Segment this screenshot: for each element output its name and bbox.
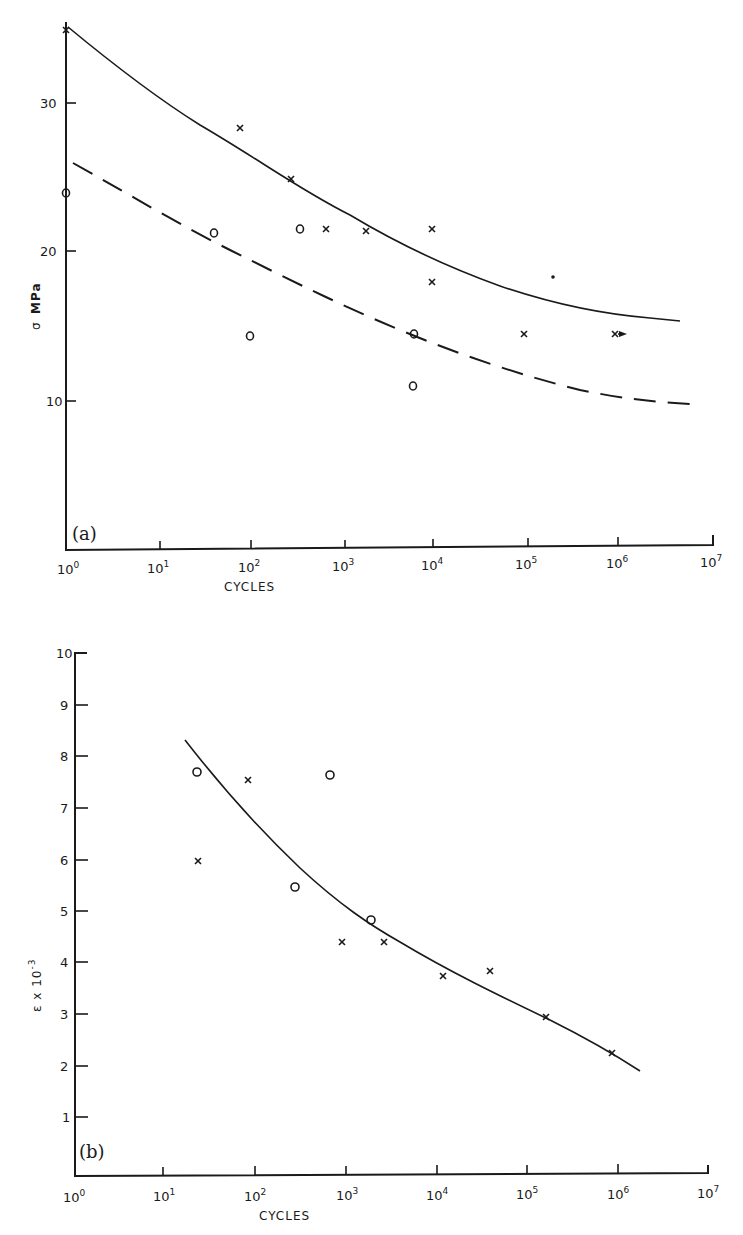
chart-b-x-markers <box>195 777 615 1056</box>
chart-a-dashed-fit-line <box>73 163 690 404</box>
chart-a-dot-marker <box>551 275 555 279</box>
svg-text:104: 104 <box>421 556 444 573</box>
svg-text:3: 3 <box>60 1007 68 1022</box>
chart-b-xtick-labels: 100 101 102 103 104 105 106 107 <box>63 1184 719 1205</box>
svg-text:9: 9 <box>60 698 68 713</box>
svg-text:10: 10 <box>56 646 73 661</box>
chart-a-ytick-label: 20 <box>40 244 57 259</box>
chart-a-ylabel-unit: MPa <box>29 282 43 314</box>
svg-text:104: 104 <box>426 1186 449 1203</box>
svg-text:100: 100 <box>63 1188 86 1205</box>
svg-text:105: 105 <box>515 555 537 572</box>
svg-text:7: 7 <box>60 801 68 816</box>
chart-a-ytick-label: 30 <box>40 96 57 111</box>
chart-b-yticks <box>75 705 88 1117</box>
chart-b-ytick-labels: 10 9 8 7 6 5 4 3 2 1 <box>56 646 73 1125</box>
svg-text:107: 107 <box>700 553 722 570</box>
chart-a-ylabel-symbol: σ <box>29 321 43 330</box>
svg-text:107: 107 <box>697 1184 719 1201</box>
svg-text:4: 4 <box>60 955 68 970</box>
chart-b-solid-fit-line <box>185 740 640 1071</box>
chart-a-x-markers <box>63 27 627 337</box>
svg-text:101: 101 <box>153 1187 175 1204</box>
svg-text:105: 105 <box>516 1185 538 1202</box>
svg-text:103: 103 <box>332 557 354 574</box>
chart-b-o-markers <box>193 768 375 924</box>
svg-text:ε x 10-3: ε x 10-3 <box>27 959 44 1012</box>
chart-b: 10 9 8 7 6 5 4 3 2 1 ε x 10-3 100 101 10… <box>27 646 719 1223</box>
chart-a-xlabel: CYCLES <box>224 580 275 594</box>
figure: 30 20 10 σ MPa 100 101 102 103 104 105 1… <box>0 0 743 1235</box>
svg-text:101: 101 <box>147 559 169 576</box>
chart-a-panel-label: (a) <box>72 523 97 544</box>
svg-text:103: 103 <box>336 1186 358 1203</box>
svg-text:8: 8 <box>60 749 68 764</box>
svg-text:2: 2 <box>60 1059 68 1074</box>
svg-text:102: 102 <box>244 1187 266 1204</box>
chart-a-xtick-labels: 100 101 102 103 104 105 106 107 <box>57 553 722 577</box>
chart-a-ytick-label: 10 <box>46 394 63 409</box>
svg-text:5: 5 <box>60 904 68 919</box>
svg-text:106: 106 <box>607 1185 630 1202</box>
chart-a-o-markers <box>63 189 418 390</box>
chart-b-panel-label: (b) <box>79 1141 105 1162</box>
chart-b-ylabel: ε x 10-3 <box>27 959 44 1012</box>
svg-text:106: 106 <box>606 554 629 571</box>
chart-a-ylabel: σ MPa <box>29 282 43 330</box>
chart-a: 30 20 10 σ MPa 100 101 102 103 104 105 1… <box>29 22 722 594</box>
svg-text:6: 6 <box>60 853 68 868</box>
chart-b-xlabel: CYCLES <box>259 1209 310 1223</box>
chart-b-axes <box>75 653 708 1176</box>
svg-text:102: 102 <box>238 558 260 575</box>
svg-text:1: 1 <box>62 1110 70 1125</box>
chart-a-solid-fit-line <box>68 27 680 321</box>
svg-text:100: 100 <box>57 560 80 577</box>
